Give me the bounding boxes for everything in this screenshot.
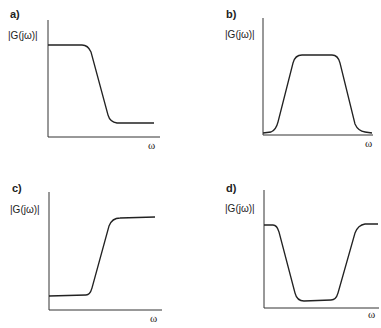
panel-a-low-pass: a) |G(jω)| ω: [8, 8, 160, 151]
panel-d-band-stop: d) |G(jω)| ω: [225, 182, 379, 320]
panel-b-label: b): [226, 8, 237, 20]
panel-a-curve: [48, 45, 154, 123]
panel-c-curve: [49, 217, 155, 296]
panel-b-ylabel: |G(jω)|: [225, 29, 255, 40]
panel-d-xlabel: ω: [368, 308, 375, 320]
panel-c-xlabel: ω: [150, 312, 157, 324]
panel-b-xlabel: ω: [365, 137, 372, 149]
panel-c-ylabel: |G(jω)|: [10, 204, 40, 215]
panel-c-label: c): [12, 182, 22, 194]
panel-b-curve: [263, 55, 372, 133]
panel-a-xlabel: ω: [148, 139, 155, 151]
panel-a-ylabel: |G(jω)|: [8, 30, 38, 41]
filter-responses-diagram: a) |G(jω)| ω b) |G(jω)| ω c) |G(jω)| ω d…: [0, 0, 381, 328]
panel-a-label: a): [10, 8, 20, 20]
panel-c-high-pass: c) |G(jω)| ω: [10, 182, 162, 324]
panel-b-band-pass: b) |G(jω)| ω: [225, 8, 373, 149]
panel-d-curve: [264, 224, 378, 301]
panel-d-ylabel: |G(jω)|: [225, 203, 255, 214]
panel-d-label: d): [226, 182, 237, 194]
